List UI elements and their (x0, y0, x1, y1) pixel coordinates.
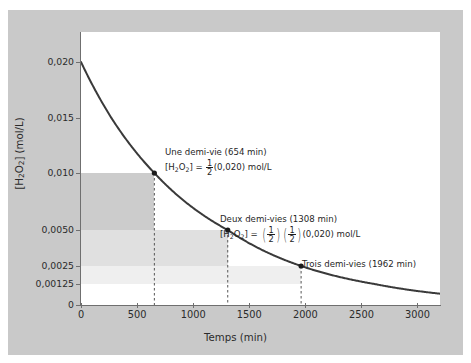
anno2-frac1-den: 2 (267, 235, 274, 243)
y-axis-title-prefix: [H (14, 178, 25, 190)
anno2-paren-close-1: ) (276, 230, 280, 240)
y-tick-label-3: 0,0050 (0, 225, 74, 234)
y-tick-label-1: 0,00125 (0, 279, 74, 288)
anno1-suffix: (0,020) mol/L (214, 163, 272, 173)
annotation-two-half-lives: Deux demi-vies (1308 min) [H2O2] = (12)(… (220, 213, 360, 244)
x-axis-title-label: Temps (min) (204, 332, 267, 343)
anno2-prefix: [H (220, 230, 230, 240)
y-tick-label-5: 0,015 (0, 113, 74, 122)
anno2-suffix: (0,020) mol/L (303, 230, 361, 240)
y-axis-title-sub1: 2 (17, 173, 26, 178)
annotation-two-line1: Deux demi-vies (1308 min) (220, 214, 337, 224)
x-tick-2 (193, 303, 194, 308)
annotation-one-half-life: Une demi-vie (654 min) [H2O2] = 12(0,020… (165, 146, 272, 177)
marker-half-life-1 (152, 170, 157, 175)
y-tick-label-2: 0,0025 (0, 261, 74, 270)
anno2-eq: ] = (244, 230, 257, 240)
y-axis-title: [H2O2] (mol/L) (15, 93, 26, 213)
y-tick-4 (76, 173, 81, 174)
anno1-eq: ] = (189, 163, 202, 173)
x-tick-label-5: 2500 (349, 310, 374, 320)
x-tick-0 (81, 303, 82, 308)
annotation-three-half-lives: Trois demi-vies (1962 min) (302, 258, 416, 270)
anno2-paren-close-2: ) (297, 230, 301, 240)
x-tick-5 (361, 303, 362, 308)
x-tick-1 (137, 303, 138, 308)
annotation-one-line1: Une demi-vie (654 min) (165, 147, 267, 157)
y-tick-2 (76, 266, 81, 267)
y-tick-3 (76, 230, 81, 231)
anno2-paren-open-2: ( (283, 230, 287, 240)
x-tick-label-6: 3000 (405, 310, 430, 320)
x-tick-label-1: 500 (128, 310, 147, 320)
x-tick-4 (305, 303, 306, 308)
y-tick-5 (76, 118, 81, 119)
y-tick-6 (76, 62, 81, 63)
y-tick-1 (76, 284, 81, 285)
anno1-fraction: 12 (206, 159, 213, 177)
anno1-prefix: [H (165, 163, 175, 173)
x-tick-6 (417, 303, 418, 308)
x-axis-line (80, 305, 441, 306)
annotation-two-line2: [H2O2] = (12)(12)(0,020) mol/L (220, 226, 360, 244)
x-tick-label-4: 2000 (293, 310, 318, 320)
y-axis-title-mid: O (14, 165, 25, 173)
y-axis-title-suffix: ] (mol/L) (14, 117, 25, 160)
anno2-mid: O (234, 230, 241, 240)
y-tick-label-6: 0,020 (0, 57, 74, 66)
annotation-one-line2: [H2O2] = 12(0,020) mol/L (165, 159, 272, 177)
anno2-fraction-1: 12 (267, 226, 274, 244)
anno2-paren-open-1: ( (262, 230, 266, 240)
x-tick-label-3: 1500 (237, 310, 262, 320)
annotation-three-line1: Trois demi-vies (1962 min) (302, 259, 416, 269)
y-axis-title-sub2: 2 (17, 161, 26, 166)
y-tick-label-4: 0,010 (0, 168, 74, 177)
x-axis-title: Temps (min) (0, 333, 471, 343)
anno1-frac-den: 2 (206, 168, 213, 176)
anno2-fraction-2: 12 (288, 226, 295, 244)
y-tick-label-0: 0 (0, 300, 74, 309)
x-tick-label-0: 0 (78, 310, 84, 320)
anno1-mid: O (179, 163, 186, 173)
anno2-frac2-den: 2 (288, 235, 295, 243)
x-tick-3 (249, 303, 250, 308)
figure-root: 00,001250,00250,00500,0100,0150,020 0500… (0, 0, 471, 363)
x-tick-label-2: 1000 (181, 310, 206, 320)
